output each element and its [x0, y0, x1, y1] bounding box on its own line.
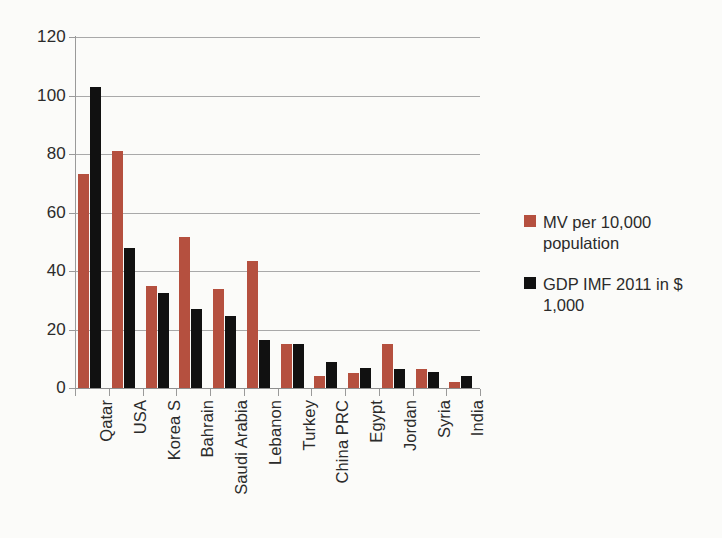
x-tick-mark: [379, 389, 380, 396]
bar-chart-figure: 120100806040200 QatarUSAKorea SBahrainSa…: [0, 0, 722, 538]
x-axis-label: China PRC: [334, 400, 351, 483]
legend-label: MV per 10,000 population: [543, 212, 714, 254]
x-tick-mark: [109, 389, 110, 396]
x-axis-label: Lebanon: [267, 400, 284, 465]
x-axis-label: Bahrain: [199, 400, 216, 458]
x-axis-label: Saudi Arabia: [233, 400, 250, 495]
chart-legend: MV per 10,000 populationGDP IMF 2011 in …: [524, 212, 714, 336]
x-tick-mark: [210, 389, 211, 396]
legend-label: GDP IMF 2011 in $ 1,000: [543, 274, 714, 316]
x-tick-mark: [480, 389, 481, 396]
x-axis-label: Qatar: [98, 400, 115, 442]
x-axis-label: Korea S: [166, 400, 183, 460]
x-tick-mark: [244, 389, 245, 396]
x-axis-label: Egypt: [368, 400, 385, 443]
x-tick-mark: [413, 389, 414, 396]
x-axis-label: USA: [132, 400, 149, 434]
y-tick-mark-120: [69, 37, 76, 38]
y-tick-mark-100: [69, 96, 76, 97]
red-square-icon: [524, 215, 536, 227]
x-tick-mark: [311, 389, 312, 396]
x-axis-label: Turkey: [301, 400, 318, 450]
x-axis-label: Jordan: [402, 400, 419, 451]
black-square-icon: [524, 277, 536, 289]
x-axis-label: India: [469, 400, 486, 436]
x-tick-mark: [176, 389, 177, 396]
y-tick-mark-20: [69, 330, 76, 331]
x-tick-mark: [143, 389, 144, 396]
x-tick-mark: [75, 389, 76, 396]
legend-entry: MV per 10,000 population: [524, 212, 714, 254]
y-tick-mark-80: [69, 154, 76, 155]
y-tick-mark-60: [69, 213, 76, 214]
x-tick-mark: [278, 389, 279, 396]
y-tick-mark-40: [69, 271, 76, 272]
x-tick-mark: [345, 389, 346, 396]
x-axis-label: Syria: [436, 400, 453, 438]
x-tick-mark: [446, 389, 447, 396]
legend-entry: GDP IMF 2011 in $ 1,000: [524, 274, 714, 316]
